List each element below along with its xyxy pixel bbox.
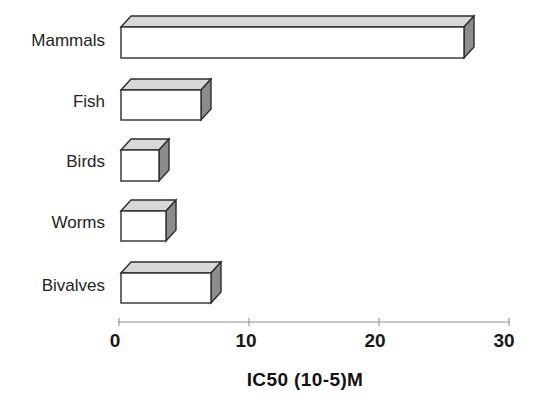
- category-label-mammals: Mammals: [31, 31, 105, 50]
- bar-fish-front-face: [121, 90, 201, 120]
- bar-chart-canvas: Mammals Fish Birds Worms Bivalves: [0, 0, 535, 413]
- bar-fish-top-face: [121, 79, 211, 90]
- x-axis-title: IC50 (10-5)M: [247, 369, 364, 390]
- x-tick-label-30: 30: [493, 330, 514, 351]
- bar-mammals-top-face: [121, 16, 474, 27]
- bar-bivalves-top-face: [121, 262, 221, 273]
- x-tick-label-0: 0: [110, 330, 121, 351]
- bar-birds-front-face: [121, 150, 159, 181]
- category-label-birds: Birds: [66, 152, 105, 171]
- category-label-worms: Worms: [51, 213, 105, 232]
- category-label-fish: Fish: [73, 92, 105, 111]
- x-tick-label-10: 10: [235, 330, 256, 351]
- bar-worms-front-face: [121, 211, 166, 241]
- bar-worms: [121, 200, 176, 241]
- bar-fish: [121, 79, 211, 120]
- chart-figure: Mammals Fish Birds Worms Bivalves: [0, 0, 535, 413]
- x-tick-label-20: 20: [364, 330, 385, 351]
- bar-birds: [121, 139, 169, 181]
- category-label-bivalves: Bivalves: [42, 276, 105, 295]
- bar-bivalves-front-face: [121, 273, 211, 303]
- bar-bivalves: [121, 262, 221, 303]
- bar-mammals: [121, 16, 474, 58]
- bar-mammals-front-face: [121, 27, 464, 58]
